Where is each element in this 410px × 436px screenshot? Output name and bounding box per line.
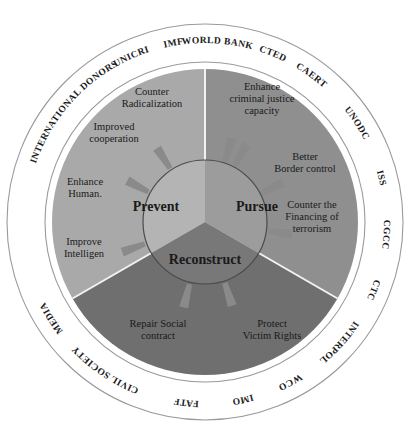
strategy-wheel-diagram: INTERNATIONAL DONORSUNICRIIMFWORLD BANKC… <box>0 0 410 436</box>
action-label-prevent: ImproveIntelligen <box>64 236 105 259</box>
pillar-label-prevent: Prevent <box>133 199 180 214</box>
action-label-prevent: EnhanceHuman. <box>67 176 103 199</box>
wheel-svg: INTERNATIONAL DONORSUNICRIIMFWORLD BANKC… <box>0 0 410 436</box>
pillar-label-reconstruct: Reconstruct <box>169 252 242 267</box>
pillar-label-pursue: Pursue <box>236 199 278 214</box>
action-label-prevent: Improvedcooperation <box>89 121 139 144</box>
action-label-pursue: Counter theFinancing ofterrorism <box>285 199 339 234</box>
